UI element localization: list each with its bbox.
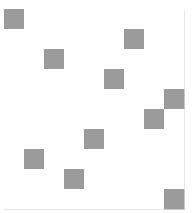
grid-plot-area xyxy=(4,9,185,210)
grid-cell-empty xyxy=(84,109,105,130)
grid-cell-empty xyxy=(104,29,125,50)
grid-cell-empty xyxy=(24,189,45,210)
grid-cell-empty xyxy=(44,189,65,210)
grid-cell-empty xyxy=(124,149,145,170)
grid-cell-empty xyxy=(104,169,125,190)
grid-cell-filled xyxy=(104,69,125,90)
grid-cell-empty xyxy=(164,149,185,170)
grid-cell-empty xyxy=(84,69,105,90)
grid-cell-empty xyxy=(144,149,165,170)
grid-cell-empty xyxy=(44,89,65,110)
grid-cell-empty xyxy=(24,9,45,30)
grid-cell-empty xyxy=(4,29,25,50)
grid-cell-empty xyxy=(24,69,45,90)
grid-cell-empty xyxy=(164,9,185,30)
grid-cell-empty xyxy=(24,49,45,70)
grid-cell-empty xyxy=(164,69,185,90)
grid-cell-empty xyxy=(4,89,25,110)
grid-cell-empty xyxy=(4,69,25,90)
grid-cell-empty xyxy=(124,189,145,210)
grid-cell-empty xyxy=(4,49,25,70)
grid-cell-filled xyxy=(84,129,105,150)
grid-cell-filled xyxy=(164,189,185,210)
grid-cell-empty xyxy=(84,149,105,170)
matrix-figure xyxy=(0,0,195,213)
grid-cell-filled xyxy=(44,49,65,70)
grid-cell-empty xyxy=(4,149,25,170)
grid-cell-empty xyxy=(24,129,45,150)
grid-cell-empty xyxy=(144,169,165,190)
grid-cell-empty xyxy=(144,29,165,50)
grid-cell-empty xyxy=(124,109,145,130)
grid-cell-empty xyxy=(44,149,65,170)
grid-cell-empty xyxy=(104,189,125,210)
grid-cell-empty xyxy=(144,189,165,210)
grid-cell-empty xyxy=(104,109,125,130)
grid-cell-empty xyxy=(84,49,105,70)
grid-cell-empty xyxy=(124,129,145,150)
grid-cell-filled xyxy=(124,29,145,50)
grid-cell-empty xyxy=(44,29,65,50)
grid-cell-filled xyxy=(164,89,185,110)
grid-cell-empty xyxy=(84,29,105,50)
grid-cell-empty xyxy=(4,129,25,150)
grid-cell-filled xyxy=(24,149,45,170)
grid-cell-empty xyxy=(104,129,125,150)
grid-cell-empty xyxy=(124,49,145,70)
grid-cell-filled xyxy=(4,9,25,30)
grid-cell-empty xyxy=(144,49,165,70)
grid-cell-empty xyxy=(64,69,85,90)
grid-cell-empty xyxy=(104,89,125,110)
grid-cell-empty xyxy=(144,69,165,90)
grid-cell-empty xyxy=(4,189,25,210)
grid-cell-empty xyxy=(64,89,85,110)
grid-cell-empty xyxy=(84,89,105,110)
grid-cell-empty xyxy=(4,109,25,130)
grid-cell-empty xyxy=(104,149,125,170)
grid-cell-empty xyxy=(44,109,65,130)
grid-cell-empty xyxy=(164,29,185,50)
grid-cell-empty xyxy=(64,149,85,170)
grid-cell-empty xyxy=(24,29,45,50)
grid-cell-empty xyxy=(64,49,85,70)
grid-cell-empty xyxy=(24,89,45,110)
grid-cell-empty xyxy=(64,189,85,210)
grid-cell-empty xyxy=(124,169,145,190)
grid-cell-empty xyxy=(84,189,105,210)
grid-cell-empty xyxy=(44,69,65,90)
grid-cell-empty xyxy=(64,9,85,30)
grid-cell-empty xyxy=(124,9,145,30)
grid-cell-empty xyxy=(4,169,25,190)
grid-cell-empty xyxy=(164,129,185,150)
grid-cell-empty xyxy=(84,9,105,30)
grid-cell-empty xyxy=(144,9,165,30)
grid-cell-empty xyxy=(44,9,65,30)
grid-cell-filled xyxy=(144,109,165,130)
grid-cell-empty xyxy=(24,109,45,130)
grid-cell-empty xyxy=(44,169,65,190)
grid-cell-empty xyxy=(144,129,165,150)
grid-cell-empty xyxy=(44,129,65,150)
grid-cell-filled xyxy=(64,169,85,190)
grid-cell-empty xyxy=(24,169,45,190)
grid-cell-empty xyxy=(124,89,145,110)
grid-cell-empty xyxy=(164,169,185,190)
grid-cell-empty xyxy=(124,69,145,90)
grid-cell-empty xyxy=(84,169,105,190)
grid-cell-empty xyxy=(164,109,185,130)
grid-cell-empty xyxy=(64,109,85,130)
grid-cell-empty xyxy=(104,9,125,30)
grid-cell-empty xyxy=(64,129,85,150)
grid-cell-empty xyxy=(144,89,165,110)
grid-cell-empty xyxy=(104,49,125,70)
grid-cell-empty xyxy=(164,49,185,70)
grid-cell-empty xyxy=(64,29,85,50)
